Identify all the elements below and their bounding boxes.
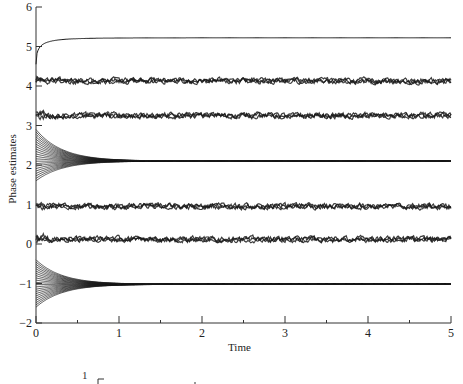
y-tick-label: −1 (19, 278, 32, 290)
y-tick-label: 3 (26, 120, 32, 132)
bundle-neg1-curve (36, 260, 451, 285)
y-axis-label: Phase estimates (6, 119, 18, 219)
bundle-neg1-curve (36, 284, 451, 305)
figure: −2−10123456 012345 Phase estimates Time … (0, 0, 463, 384)
bundle-neg1-curve (36, 264, 451, 284)
bundle-2-curve (36, 161, 451, 176)
bundle-2-curve (36, 134, 451, 161)
bundle-neg1-curve (36, 284, 451, 302)
bundle-neg1-curve (36, 262, 451, 284)
bundle-2-curve (36, 161, 451, 181)
x-tick-label: 1 (116, 327, 122, 339)
y-tick-label: 0 (26, 238, 32, 250)
x-tick-label: 0 (33, 327, 39, 339)
y-tick-label: 2 (26, 159, 32, 171)
bundle-neg1-curve (36, 284, 451, 307)
y-tick-label: 6 (26, 1, 32, 13)
converging-top (36, 38, 451, 65)
y-tick-label: 4 (26, 80, 32, 92)
x-axis-label: Time (228, 341, 251, 353)
bundle-2-curve (36, 161, 451, 166)
bundle-2-curve (36, 137, 451, 161)
y-tick-label: 1 (26, 199, 32, 211)
bundle-2-curve (36, 129, 451, 161)
x-tick-label: 3 (282, 327, 288, 339)
phase-estimates-plot (0, 0, 463, 384)
bundle-2-curve (36, 139, 451, 161)
x-tick-label: 2 (199, 327, 205, 339)
x-tick-label: 5 (448, 327, 454, 339)
bundle-neg1-curve (36, 267, 451, 285)
bundle-2-curve (36, 132, 451, 161)
second-panel-y-tick-label: 1 (82, 369, 88, 381)
y-tick-label: −2 (19, 317, 32, 329)
x-tick-label: 4 (365, 327, 371, 339)
bundle-2-curve (36, 161, 451, 178)
y-tick-label: 5 (26, 41, 32, 53)
